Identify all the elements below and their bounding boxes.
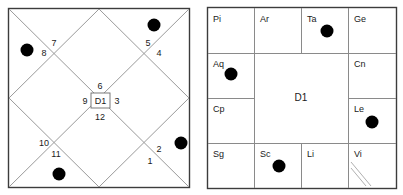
house-number-8: 8 [41, 48, 46, 58]
sign-label-sc: Sc [260, 149, 271, 159]
house-number-6: 6 [97, 81, 102, 91]
house-number-11: 11 [51, 149, 60, 159]
sign-label-cn: Cn [354, 59, 366, 69]
sign-label-vi: Vi [354, 149, 362, 159]
house-number-10: 10 [39, 138, 49, 148]
north-center-label: D1 [95, 96, 107, 106]
house-number-12: 12 [95, 112, 105, 122]
south-center-label: D1 [295, 92, 308, 103]
south-dot-taurus [321, 25, 334, 38]
house-number-5: 5 [145, 38, 150, 48]
astrology-chart-pair: D1 1 2 3 4 5 6 7 8 9 10 11 12 Pi [0, 0, 403, 195]
sign-label-ta: Ta [307, 14, 317, 24]
north-dot-bottom [53, 168, 66, 181]
house-number-9: 9 [82, 96, 87, 106]
house-number-4: 4 [156, 48, 161, 58]
house-number-1: 1 [147, 156, 152, 166]
house-number-7: 7 [51, 38, 56, 48]
north-dot-right [175, 137, 188, 150]
sign-label-sg: Sg [213, 149, 224, 159]
south-dot-leo [366, 116, 379, 129]
sign-label-cp: Cp [213, 104, 225, 114]
north-indian-chart: D1 1 2 3 4 5 6 7 8 9 10 11 12 [0, 0, 200, 195]
sign-label-ge: Ge [354, 14, 366, 24]
north-dot-top-right [148, 19, 161, 32]
sign-label-pi: Pi [213, 14, 221, 24]
south-dot-scorpio [273, 160, 286, 173]
north-dot-left [21, 44, 34, 57]
sign-label-li: Li [307, 149, 314, 159]
house-number-3: 3 [114, 96, 119, 106]
sign-label-aq: Aq [213, 59, 224, 69]
house-number-2: 2 [156, 144, 161, 154]
south-indian-chart: Pi Ar Ta Ge Aq Cn Cp Le Sg Sc Li Vi D1 [200, 0, 403, 195]
sign-label-ar: Ar [260, 14, 269, 24]
south-dot-aquarius [225, 68, 238, 81]
sign-label-le: Le [354, 104, 364, 114]
